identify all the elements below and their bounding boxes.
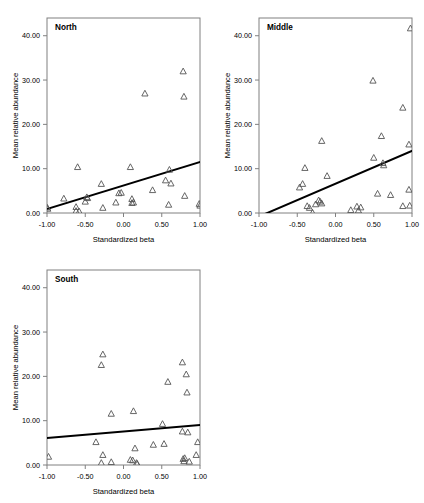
data-point-south	[179, 428, 185, 434]
data-point-middle	[400, 203, 406, 209]
panel-south: 0.0010.0020.0030.0040.00-1.00-0.500.000.…	[0, 252, 212, 502]
data-point-middle	[400, 104, 406, 110]
data-point-north	[127, 164, 133, 170]
scatter-figure: 0.0010.0020.0030.0040.00-1.00-0.500.000.…	[0, 0, 424, 503]
data-point-north	[61, 195, 67, 201]
panel-north: 0.0010.0020.0030.0040.00-1.00-0.500.000.…	[0, 0, 212, 250]
y-tick-label-south-2: 20.00	[22, 372, 40, 381]
panel-south-axes: 0.0010.0020.0030.0040.00-1.00-0.500.000.…	[11, 270, 207, 496]
y-tick-label-north-0: 0.00	[26, 209, 40, 218]
panel-middle-plot: 0.0010.0020.0030.0040.00-1.00-0.500.000.…	[212, 0, 424, 250]
data-point-north	[142, 90, 148, 96]
data-point-middle	[387, 192, 393, 198]
regression-line-north	[47, 162, 200, 209]
data-point-north	[182, 193, 188, 199]
data-point-north	[181, 93, 187, 99]
x-tick-label-south-4: 1.00	[193, 472, 207, 481]
x-tick-label-middle-4: 1.00	[405, 220, 419, 229]
data-point-south	[184, 389, 190, 395]
x-tick-label-middle-2: 0.00	[329, 220, 343, 229]
x-tick-label-south-3: 0.50	[155, 472, 169, 481]
panel-north-axes: 0.0010.0020.0030.0040.00-1.00-0.500.000.…	[11, 18, 207, 244]
data-point-middle	[296, 184, 302, 190]
regression-line-south	[47, 425, 200, 438]
data-point-south	[108, 459, 114, 465]
data-point-south	[179, 359, 185, 365]
data-point-north	[166, 201, 172, 207]
data-point-south	[98, 362, 104, 368]
x-tick-label-north-2: 0.00	[117, 220, 131, 229]
y-tick-label-middle-2: 20.00	[234, 120, 252, 129]
panel-title-middle: Middle	[267, 23, 293, 32]
x-axis-title-south: Standardized beta	[93, 487, 155, 496]
data-point-middle	[319, 138, 325, 144]
y-tick-label-north-4: 40.00	[22, 31, 40, 40]
panel-middle: 0.0010.0020.0030.0040.00-1.00-0.500.000.…	[212, 0, 424, 250]
data-point-middle	[407, 25, 413, 31]
data-layer-north	[44, 68, 203, 214]
data-point-middle	[370, 77, 376, 83]
data-point-south	[161, 441, 167, 447]
y-tick-label-south-1: 10.00	[22, 416, 40, 425]
data-point-south	[45, 453, 51, 459]
data-point-north	[180, 68, 186, 74]
data-point-middle	[371, 155, 377, 161]
y-tick-label-middle-3: 30.00	[234, 76, 252, 85]
x-tick-label-north-3: 0.50	[155, 220, 169, 229]
data-layer-south	[45, 351, 200, 466]
data-point-north	[75, 164, 81, 170]
x-tick-label-south-1: -0.50	[77, 472, 93, 481]
y-tick-label-south-0: 0.00	[26, 461, 40, 470]
y-tick-label-north-2: 20.00	[22, 120, 40, 129]
data-layer-middle	[259, 25, 414, 216]
data-point-middle	[378, 133, 384, 139]
data-point-north	[113, 199, 119, 205]
plot-frame-north	[47, 18, 200, 213]
panel-title-north: North	[55, 23, 77, 32]
data-point-south	[100, 351, 106, 357]
data-point-south	[100, 452, 106, 458]
data-point-middle	[324, 173, 330, 179]
data-point-south	[108, 410, 114, 416]
x-axis-title-north: Standardized beta	[93, 235, 155, 244]
x-tick-label-north-4: 1.00	[193, 220, 207, 229]
data-point-middle	[406, 186, 412, 192]
y-tick-label-north-1: 10.00	[22, 164, 40, 173]
data-point-middle	[302, 165, 308, 171]
data-point-middle	[374, 190, 380, 196]
y-axis-title-north: Mean relative abundance	[11, 73, 20, 158]
x-tick-label-north-1: -0.50	[77, 220, 93, 229]
data-point-south	[193, 452, 199, 458]
x-tick-label-south-2: 0.00	[117, 472, 131, 481]
x-tick-label-north-0: -1.00	[39, 220, 55, 229]
regression-line-middle	[259, 151, 412, 217]
y-tick-label-south-3: 30.00	[22, 328, 40, 337]
panel-south-plot: 0.0010.0020.0030.0040.00-1.00-0.500.000.…	[0, 252, 212, 502]
data-point-south	[165, 379, 171, 385]
y-tick-label-north-3: 30.00	[22, 76, 40, 85]
data-point-south	[150, 442, 156, 448]
panel-north-plot: 0.0010.0020.0030.0040.00-1.00-0.500.000.…	[0, 0, 212, 250]
data-point-north	[98, 181, 104, 187]
data-point-south	[93, 439, 99, 445]
data-point-middle	[348, 207, 354, 213]
y-tick-label-middle-4: 40.00	[234, 31, 252, 40]
y-tick-label-middle-0: 0.00	[238, 209, 252, 218]
data-point-south	[130, 408, 136, 414]
panel-title-south: South	[55, 275, 78, 284]
x-tick-label-middle-1: -0.50	[289, 220, 305, 229]
x-axis-title-middle: Standardized beta	[305, 235, 367, 244]
data-point-south	[132, 445, 138, 451]
data-point-south	[159, 421, 165, 427]
data-point-middle	[406, 141, 412, 147]
data-point-north	[100, 205, 106, 211]
data-point-south	[183, 371, 189, 377]
y-tick-label-middle-1: 10.00	[234, 164, 252, 173]
panel-middle-axes: 0.0010.0020.0030.0040.00-1.00-0.500.000.…	[223, 18, 419, 244]
y-axis-title-middle: Mean relative abundance	[223, 73, 232, 158]
data-point-middle	[300, 181, 306, 187]
data-point-north	[162, 177, 168, 183]
data-point-north	[149, 187, 155, 193]
x-tick-label-middle-0: -1.00	[251, 220, 267, 229]
y-tick-label-south-4: 40.00	[22, 283, 40, 292]
